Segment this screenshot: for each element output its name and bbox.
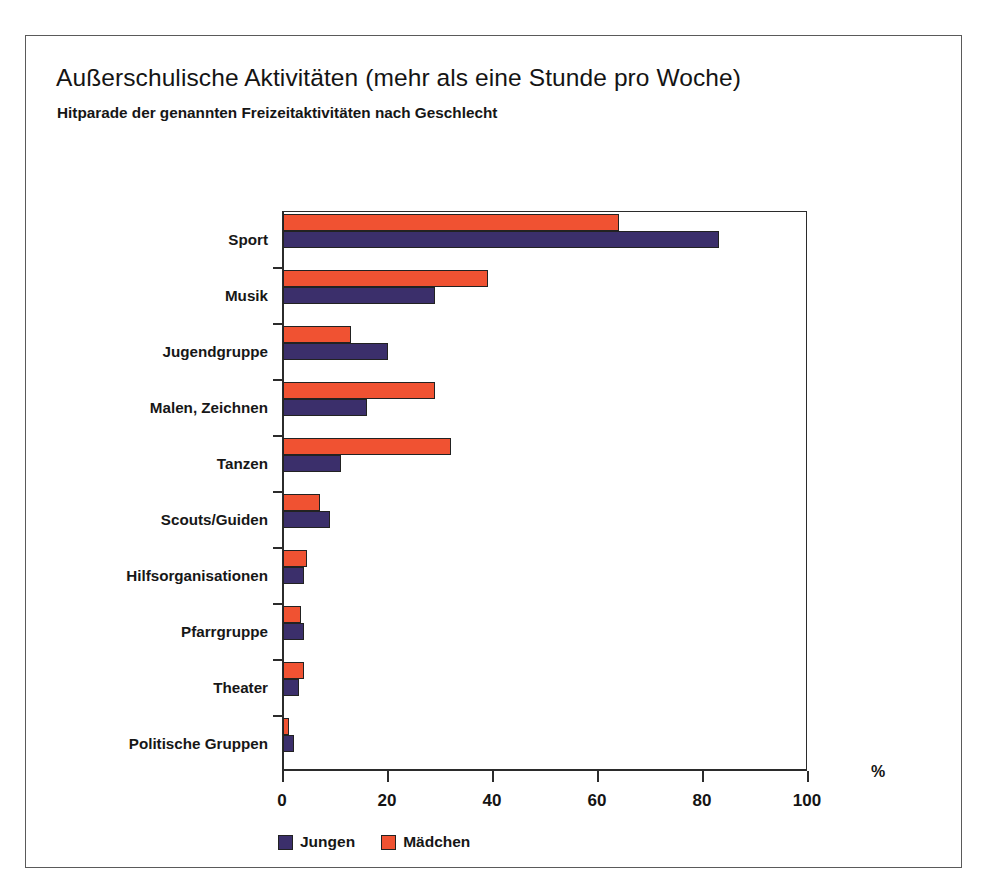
bar-jungen [283,287,435,304]
plot-area: SportMusikJugendgruppeMalen, ZeichnenTan… [282,211,807,771]
bar-row: Malen, Zeichnen [282,379,807,435]
bar-maedchen [283,382,435,399]
chart-subtitle: Hitparade der genannten Freizeitaktivitä… [57,104,497,122]
x-axis-tick [597,771,599,782]
category-label: Scouts/Guiden [161,511,268,528]
x-axis-tick [387,771,389,782]
category-label: Malen, Zeichnen [150,399,268,416]
legend-swatch-icon [278,835,293,850]
bar-row: Pfarrgruppe [282,603,807,659]
bar-maedchen [283,270,488,287]
y-axis-tick [273,491,282,493]
bar-jungen [283,735,294,752]
bar-row: Theater [282,659,807,715]
x-axis-tick [702,771,704,782]
y-axis-tick [273,267,282,269]
legend-item[interactable]: Jungen [278,833,355,851]
x-axis-unit-label: % [871,763,885,781]
category-label: Tanzen [217,455,268,472]
bar-jungen [283,511,330,528]
bar-jungen [283,343,388,360]
x-axis-tick-label: 60 [588,791,607,811]
bar-row: Scouts/Guiden [282,491,807,547]
bar-maedchen [283,214,619,231]
y-axis-tick [273,323,282,325]
chart-title: Außerschulische Aktivitäten (mehr als ei… [56,64,741,92]
bar-jungen [283,399,367,416]
y-axis-tick [273,715,282,717]
y-axis-tick [273,659,282,661]
legend-swatch-icon [381,835,396,850]
bar-row: Tanzen [282,435,807,491]
category-label: Jugendgruppe [163,343,268,360]
category-label: Hilfsorganisationen [126,567,268,584]
chart-legend: JungenMädchen [278,833,470,851]
bar-row: Sport [282,211,807,267]
y-axis-tick [273,435,282,437]
figure-frame: Außerschulische Aktivitäten (mehr als ei… [25,35,962,868]
bar-jungen [283,567,304,584]
legend-item[interactable]: Mädchen [381,833,470,851]
bar-jungen [283,679,299,696]
bar-maedchen [283,606,301,623]
bar-jungen [283,623,304,640]
x-axis-tick-label: 0 [277,791,286,811]
bar-row: Musik [282,267,807,323]
x-axis-tick-label: 20 [378,791,397,811]
legend-label: Jungen [300,833,355,851]
category-label: Pfarrgruppe [181,623,268,640]
x-axis-tick [807,771,809,782]
category-label: Theater [213,679,268,696]
x-axis-tick [282,771,284,782]
category-label: Politische Gruppen [129,735,268,752]
y-axis-tick [273,547,282,549]
bar-maedchen [283,550,307,567]
y-axis-tick [273,603,282,605]
bar-maedchen [283,662,304,679]
bar-maedchen [283,438,451,455]
category-label: Musik [225,287,268,304]
x-axis-tick-label: 40 [483,791,502,811]
bar-maedchen [283,326,351,343]
x-axis-tick [492,771,494,782]
y-axis-tick [273,379,282,381]
bar-row: Jugendgruppe [282,323,807,379]
bar-row: Politische Gruppen [282,715,807,771]
category-label: Sport [228,231,268,248]
bar-row: Hilfsorganisationen [282,547,807,603]
x-axis-tick-label: 80 [693,791,712,811]
bar-jungen [283,231,719,248]
x-axis-tick-label: 100 [793,791,821,811]
bar-jungen [283,455,341,472]
bar-maedchen [283,718,289,735]
bar-maedchen [283,494,320,511]
legend-label: Mädchen [403,833,470,851]
